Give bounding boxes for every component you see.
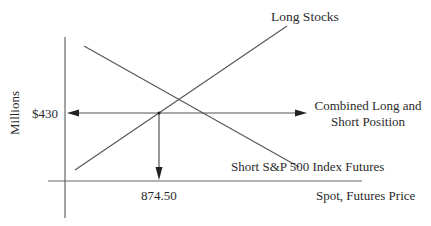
long-stocks-line	[75, 26, 287, 170]
x-tick-label: 874.50	[141, 189, 177, 202]
hedge-payoff-diagram: Long Stocks Combined Long and Short Posi…	[0, 0, 431, 226]
arrow-right-icon	[295, 110, 307, 117]
y-tick-label: $430	[32, 107, 58, 120]
long-stocks-label: Long Stocks	[271, 10, 339, 24]
arrow-down-icon	[156, 167, 163, 180]
short-futures-line	[84, 46, 299, 167]
intersection-point	[157, 111, 160, 114]
combined-label-line2: Short Position	[312, 114, 424, 130]
arrow-left-icon	[67, 110, 79, 117]
combined-label-line1: Combined Long and	[312, 98, 424, 114]
y-axis-label: Millions	[8, 91, 21, 135]
combined-position-label: Combined Long and Short Position	[312, 98, 424, 130]
short-futures-label: Short S&P 500 Index Futures	[231, 160, 384, 173]
x-axis-label: Spot, Futures Price	[316, 189, 415, 202]
